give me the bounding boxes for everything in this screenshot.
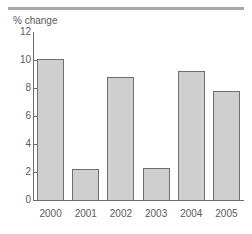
bar-2004: [178, 71, 205, 201]
bar-2001: [72, 169, 99, 201]
bar-chart-figure: % change 024681012 200020012002200320042…: [0, 0, 252, 234]
y-tick-text: 2: [9, 167, 31, 177]
bar-2005: [213, 91, 240, 201]
y-tick-label-0: 0: [5, 195, 31, 205]
y-tick-label-6: 6: [5, 111, 31, 121]
bar-2002: [107, 77, 134, 201]
bar-2003: [143, 168, 170, 201]
y-tick-label-4: 4: [5, 139, 31, 149]
bar-series: [33, 0, 244, 234]
y-tick-text: 6: [9, 111, 31, 121]
y-tick-text: 4: [9, 139, 31, 149]
x-tick-label-2005: 2005: [204, 208, 248, 219]
y-tick-text: 10: [9, 55, 31, 65]
bar-2000: [37, 59, 64, 201]
y-tick-text: 8: [9, 83, 31, 93]
y-tick-label-10: 10: [5, 55, 31, 65]
y-tick-text: 12: [9, 27, 31, 37]
y-tick-text: 0: [9, 195, 31, 205]
y-tick-label-8: 8: [5, 83, 31, 93]
y-tick-label-12: 12: [5, 27, 31, 37]
y-tick-label-2: 2: [5, 167, 31, 177]
plot-area: 024681012 200020012002200320042005: [0, 0, 252, 234]
